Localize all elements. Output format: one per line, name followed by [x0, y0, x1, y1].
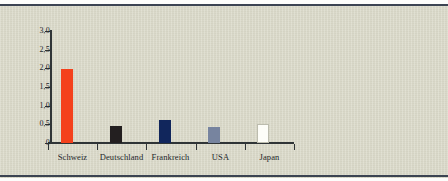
bar-deutschland: [110, 126, 122, 143]
bar-usa: [208, 127, 220, 143]
y-axis-tick-label: 0: [22, 139, 50, 147]
y-axis-tick-label: 3,0: [22, 27, 50, 35]
y-axis-tick-label: 1,5: [22, 83, 50, 91]
y-axis-line: [50, 30, 52, 144]
y-axis-tick-label-row: 2,5: [10, 46, 50, 54]
y-axis-tick-label-row: 1,0: [10, 102, 50, 110]
x-axis-tick: [245, 144, 246, 150]
x-axis-tick: [97, 144, 98, 150]
y-axis-tick-label-row: 2,0: [10, 64, 50, 72]
x-axis-tick: [48, 144, 49, 150]
bar-schweiz: [61, 69, 73, 143]
y-axis-tick-label: 2,5: [22, 46, 50, 54]
x-axis-tick: [146, 144, 147, 150]
y-axis-tick-label: 2,0: [22, 64, 50, 72]
bar-japan: [257, 124, 269, 143]
chart-figure: 00,51,01,52,02,53,0 SchweizDeutschlandFr…: [0, 0, 448, 181]
y-axis-tick-label-row: 0,5: [10, 120, 50, 128]
y-axis-tick-label-row: 3,0: [10, 27, 50, 35]
plot-area: 00,51,01,52,02,53,0 SchweizDeutschlandFr…: [0, 0, 448, 181]
x-axis-tick: [196, 144, 197, 150]
x-axis-label-japan: Japan: [239, 152, 300, 162]
y-axis-tick-label-row: 1,5: [10, 83, 50, 91]
y-axis-tick-label-row: 0: [10, 139, 50, 147]
x-axis-tick: [294, 144, 295, 150]
y-axis-tick-label: 0,5: [22, 120, 50, 128]
y-axis-tick-label: 1,0: [22, 102, 50, 110]
bar-frankreich: [159, 120, 171, 143]
